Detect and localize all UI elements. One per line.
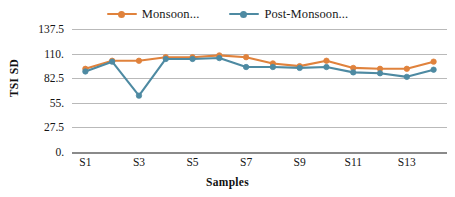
data-point <box>377 71 382 76</box>
data-point <box>243 64 248 69</box>
data-point <box>431 59 436 64</box>
x-tick-label: S9 <box>294 156 306 168</box>
x-tick-label: S5 <box>186 156 198 168</box>
legend-label-post-monsoon: Post-Monsoon... <box>264 7 348 22</box>
series-monsoon <box>83 53 437 72</box>
y-tick-label: 82.5 <box>44 72 64 84</box>
x-tick-label: S7 <box>240 156 252 168</box>
x-axis-line <box>72 152 447 154</box>
legend-marker-monsoon <box>118 11 125 18</box>
plot-area <box>72 29 447 152</box>
legend-item-post-monsoon[interactable]: Post-Monsoon... <box>229 7 348 22</box>
legend-item-monsoon[interactable]: Monsoon... <box>107 7 200 22</box>
y-tick-label: 137.5 <box>38 23 64 35</box>
data-point <box>190 56 195 61</box>
x-axis-tick-labels: S1S3S5S7S9S11S13 <box>72 156 447 174</box>
x-tick-label: S3 <box>133 156 145 168</box>
series-container <box>72 29 447 152</box>
y-tick-label: 0. <box>55 146 64 158</box>
x-tick-label: S11 <box>345 156 362 168</box>
data-point <box>109 59 114 64</box>
data-point <box>404 66 409 71</box>
series-post-monsoon <box>83 55 437 98</box>
series-line <box>85 58 433 96</box>
y-tick-label: 27.5 <box>44 121 64 133</box>
y-tick-label: 55. <box>50 97 64 109</box>
line-chart: Monsoon... Post-Monsoon... TSI SD 137.51… <box>0 0 455 197</box>
x-tick-label: S13 <box>398 156 416 168</box>
x-tick-label: S1 <box>79 156 91 168</box>
data-point <box>297 65 302 70</box>
legend-swatch-monsoon <box>107 9 137 20</box>
y-axis-tick-labels: 137.5110.82.555.27.50. <box>0 0 72 197</box>
legend-marker-post-monsoon <box>240 11 247 18</box>
data-point <box>217 55 222 60</box>
data-point <box>404 74 409 79</box>
data-point <box>136 93 141 98</box>
data-point <box>431 67 436 72</box>
legend-swatch-post-monsoon <box>229 9 259 20</box>
data-point <box>351 70 356 75</box>
data-point <box>136 58 141 63</box>
data-point <box>324 64 329 69</box>
data-point <box>83 69 88 74</box>
data-point <box>324 58 329 63</box>
data-point <box>270 64 275 69</box>
legend-label-monsoon: Monsoon... <box>142 7 200 22</box>
data-point <box>243 54 248 59</box>
data-point <box>163 56 168 61</box>
y-tick-label: 110. <box>44 48 64 60</box>
x-axis-title: Samples <box>0 176 455 188</box>
